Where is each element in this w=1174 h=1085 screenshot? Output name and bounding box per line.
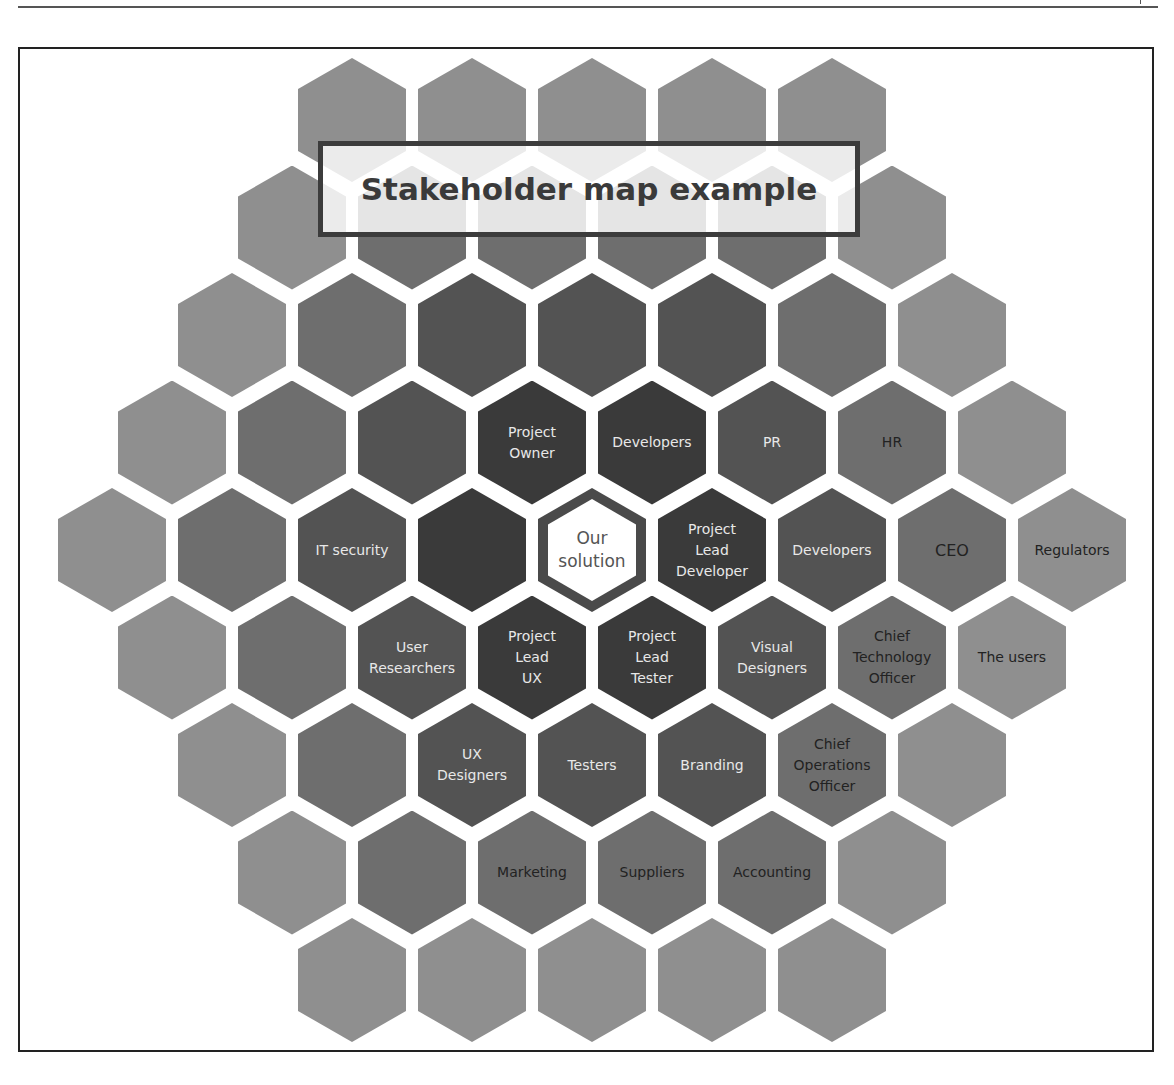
hex-stakeholder: IT security [298, 488, 406, 612]
hex-empty [118, 381, 226, 505]
hex-stakeholder: Chief Operations Officer [778, 703, 886, 827]
hex-label: Regulators [1030, 540, 1113, 561]
hex-empty [238, 596, 346, 720]
hex-empty [778, 918, 886, 1042]
hex-stakeholder: Visual Designers [718, 596, 826, 720]
hex-empty [298, 703, 406, 827]
hex-empty [538, 918, 646, 1042]
hex-stakeholder: Chief Technology Officer [838, 596, 946, 720]
hex-empty [538, 273, 646, 397]
hex-stakeholder: Suppliers [598, 811, 706, 935]
hex-empty [838, 811, 946, 935]
hex-label: UX Designers [433, 744, 511, 786]
hex-empty [178, 273, 286, 397]
hex-our-solution: Our solution [538, 488, 646, 612]
hex-empty [958, 381, 1066, 505]
figure-title: Stakeholder map example [361, 171, 817, 207]
hex-stakeholder: Developers [778, 488, 886, 612]
page-header-rule [18, 6, 1158, 8]
hex-empty [178, 488, 286, 612]
hex-label: Developers [608, 432, 695, 453]
hex-empty [238, 811, 346, 935]
hex-empty [898, 273, 1006, 397]
title-box: Stakeholder map example [318, 141, 860, 237]
hex-empty [238, 381, 346, 505]
hex-label: Visual Designers [733, 637, 811, 679]
hex-label: Chief Operations Officer [790, 734, 875, 797]
hex-empty [658, 273, 766, 397]
hex-stakeholder: Project Lead Tester [598, 596, 706, 720]
hex-stakeholder: Project Owner [478, 381, 586, 505]
hex-label: IT security [311, 540, 392, 561]
page-number-mark [1140, 0, 1141, 4]
hex-center-inner: Our solution [548, 499, 636, 601]
hex-empty [178, 703, 286, 827]
hex-stakeholder: Project Lead UX [478, 596, 586, 720]
hex-label: PR [759, 432, 785, 453]
hex-label: Chief Technology Officer [849, 626, 935, 689]
hex-stakeholder: Developers [598, 381, 706, 505]
hex-label: CEO [931, 540, 973, 561]
hex-empty [418, 488, 526, 612]
hex-label: Suppliers [616, 862, 689, 883]
hex-stakeholder: Testers [538, 703, 646, 827]
hex-stakeholder: Branding [658, 703, 766, 827]
hex-empty [118, 596, 226, 720]
hex-label: Accounting [729, 862, 815, 883]
hex-empty [298, 273, 406, 397]
hex-stakeholder: Accounting [718, 811, 826, 935]
hex-empty [898, 703, 1006, 827]
hex-empty [358, 811, 466, 935]
hex-stakeholder: UX Designers [418, 703, 526, 827]
hex-label: The users [974, 647, 1050, 668]
hex-label: Project Lead Developer [672, 519, 752, 582]
hex-stakeholder: Regulators [1018, 488, 1126, 612]
hex-label: HR [878, 432, 906, 453]
hex-stakeholder: User Researchers [358, 596, 466, 720]
hex-label: Project Owner [504, 422, 560, 464]
hex-label: Project Lead Tester [624, 626, 680, 689]
hex-label: Marketing [493, 862, 571, 883]
hex-label: Our solution [554, 527, 629, 573]
hex-label: Project Lead UX [504, 626, 560, 689]
hex-empty [298, 918, 406, 1042]
hex-label: User Researchers [365, 637, 459, 679]
stakeholder-map-figure: Project OwnerDevelopersPRHRIT securityOu… [18, 47, 1154, 1052]
hex-stakeholder: CEO [898, 488, 1006, 612]
hex-stakeholder: The users [958, 596, 1066, 720]
hex-stakeholder: Marketing [478, 811, 586, 935]
hex-empty [358, 381, 466, 505]
hex-label: Branding [676, 755, 747, 776]
hex-empty [418, 273, 526, 397]
hex-empty [778, 273, 886, 397]
hex-empty [58, 488, 166, 612]
hex-empty [418, 918, 526, 1042]
hex-stakeholder: HR [838, 381, 946, 505]
hex-label: Developers [788, 540, 875, 561]
hex-stakeholder: Project Lead Developer [658, 488, 766, 612]
hex-empty [658, 918, 766, 1042]
hex-label: Testers [563, 755, 620, 776]
hex-stakeholder: PR [718, 381, 826, 505]
